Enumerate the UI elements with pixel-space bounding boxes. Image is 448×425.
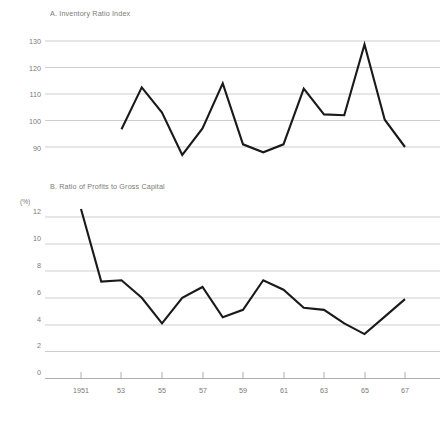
x-axis-tickmarks [81,372,405,379]
panel-b-data-line [81,209,405,334]
panel-a-data-line [122,44,406,155]
panel-a-gridlines [45,41,440,147]
figure-container: A. Inventory Ratio Index B. Ratio of Pro… [0,0,448,425]
plot-canvas [0,0,448,425]
panel-b-gridlines [45,217,440,352]
